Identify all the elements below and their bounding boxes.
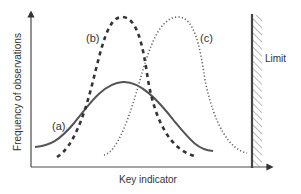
y-axis-label: Frequency of observations	[12, 33, 23, 151]
chart: (a) (b) (c) Limit Key indicator Frequenc…	[0, 0, 301, 194]
limit-wall	[252, 14, 262, 168]
label-b: (b)	[86, 32, 99, 44]
curve-a	[35, 82, 213, 151]
curve-b	[57, 17, 195, 157]
label-a: (a)	[52, 120, 65, 132]
curve-c	[104, 17, 247, 155]
x-axis-label: Key indicator	[119, 174, 177, 185]
limit-label: Limit	[265, 53, 286, 64]
label-c: (c)	[200, 32, 213, 44]
